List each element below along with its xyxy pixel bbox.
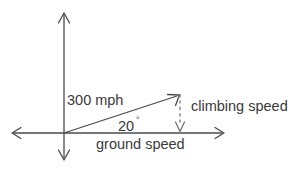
degree-symbol-icon: ° (136, 116, 140, 125)
climbing-speed-dashed-line (176, 94, 185, 132)
ground-speed-label: ground speed (96, 137, 185, 152)
vertical-axis (59, 13, 70, 160)
airspeed-vector-arrowhead (168, 95, 180, 106)
vector-diagram: 300 mph 20 ° climbing speed ground speed (0, 0, 294, 173)
magnitude-label: 300 mph (67, 93, 123, 108)
climbing-speed-arrowhead (176, 122, 185, 132)
climbing-speed-label: climbing speed (191, 99, 288, 114)
angle-label: 20 (118, 119, 134, 134)
